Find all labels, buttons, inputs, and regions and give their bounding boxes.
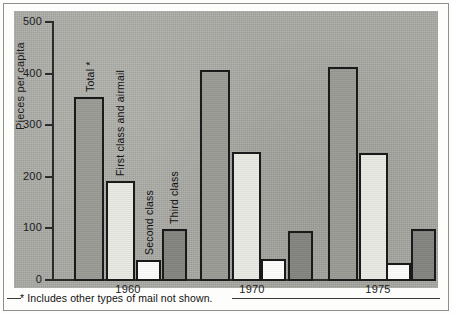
- bar: [232, 152, 261, 281]
- bar: [106, 181, 135, 281]
- bar: [162, 229, 187, 281]
- series-label-total: Total *: [84, 61, 96, 92]
- bar: [386, 263, 411, 281]
- bar: [359, 153, 388, 281]
- x-axis-label: 1975: [348, 283, 408, 295]
- series-label-first: First class and airmail: [114, 70, 126, 176]
- bar: [74, 97, 104, 281]
- series-label-second: Second class: [143, 190, 155, 255]
- bar: [328, 67, 358, 281]
- bar: [288, 231, 313, 281]
- bar: [411, 229, 436, 281]
- series-label-third: Third class: [168, 171, 180, 224]
- bar: [200, 70, 230, 281]
- footnote-rule-left: [7, 298, 21, 299]
- bars-layer: [0, 22, 452, 281]
- bar: [136, 260, 161, 281]
- chart-page: 0100200300400500 Pieces per capita Total…: [0, 0, 452, 314]
- footnote-rule-right: [232, 298, 440, 299]
- bar: [261, 259, 286, 281]
- footnote-text: * Includes other types of mail not shown…: [20, 292, 213, 304]
- x-axis-label: 1970: [222, 283, 282, 295]
